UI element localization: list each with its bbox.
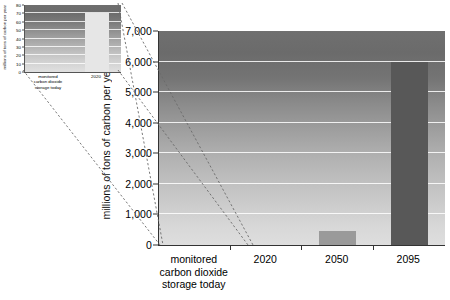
inset-plot-area — [24, 5, 121, 73]
y-axis-tick-label: 5,000 — [125, 86, 152, 98]
x-axis-tick-label-line: storage today — [25, 85, 71, 90]
bar — [319, 231, 356, 245]
x-axis-tick-label-line: carbon dioxide — [146, 266, 242, 279]
main-x-axis-ticks — [158, 245, 444, 251]
x-axis-tick-label: 2095 — [360, 253, 450, 266]
y-axis-tick-label: 40 — [16, 36, 21, 41]
bar — [85, 13, 110, 72]
y-axis-tick-label: 60 — [16, 19, 21, 24]
y-axis-tick-label: 30 — [16, 44, 21, 49]
x-axis-tick-mark — [230, 245, 231, 250]
y-axis-tick-label: 0 — [19, 70, 21, 75]
x-axis-tick-label-line: 2095 — [360, 253, 450, 266]
x-axis-tick-mark — [301, 245, 302, 250]
main-y-axis-label-text: millions of tons of carbon per year — [100, 62, 112, 220]
y-axis-tick-label: 10 — [16, 61, 21, 66]
y-axis-tick-label: 20 — [16, 53, 21, 58]
x-axis-tick-label-line: 2020 — [73, 74, 119, 79]
bar — [391, 62, 428, 245]
y-axis-tick-label: 6,000 — [125, 56, 152, 68]
y-axis-tick-label: 50 — [16, 28, 21, 33]
y-axis-tick-label: 80 — [16, 3, 21, 8]
y-axis-tick-label: 7,000 — [125, 25, 152, 37]
y-axis-tick-label: 0 — [146, 239, 152, 251]
x-axis-tick-label: monitoredcarbon dioxidestorage today — [25, 74, 71, 90]
y-axis-tick-label: 1,000 — [125, 208, 152, 220]
y-axis-tick-label: 4,000 — [125, 117, 152, 129]
x-axis-tick-mark — [373, 245, 374, 250]
inset-y-axis-label-text: millions of tons of carbon per year — [2, 5, 7, 70]
inset-y-axis-ticks: 01020304050607080 — [8, 5, 24, 72]
y-axis-tick-label: 70 — [16, 11, 21, 16]
x-axis-tick-label: 2020 — [73, 74, 119, 79]
inset-bar-chart: millions of tons of carbon per year 0102… — [2, 2, 122, 74]
inset-y-axis-label: millions of tons of carbon per year — [2, 2, 7, 72]
main-plot-area — [158, 31, 445, 246]
y-axis-tick-label: 3,000 — [125, 147, 152, 159]
y-axis-tick-label: 2,000 — [125, 178, 152, 190]
x-axis-tick-label-line: storage today — [146, 278, 242, 291]
